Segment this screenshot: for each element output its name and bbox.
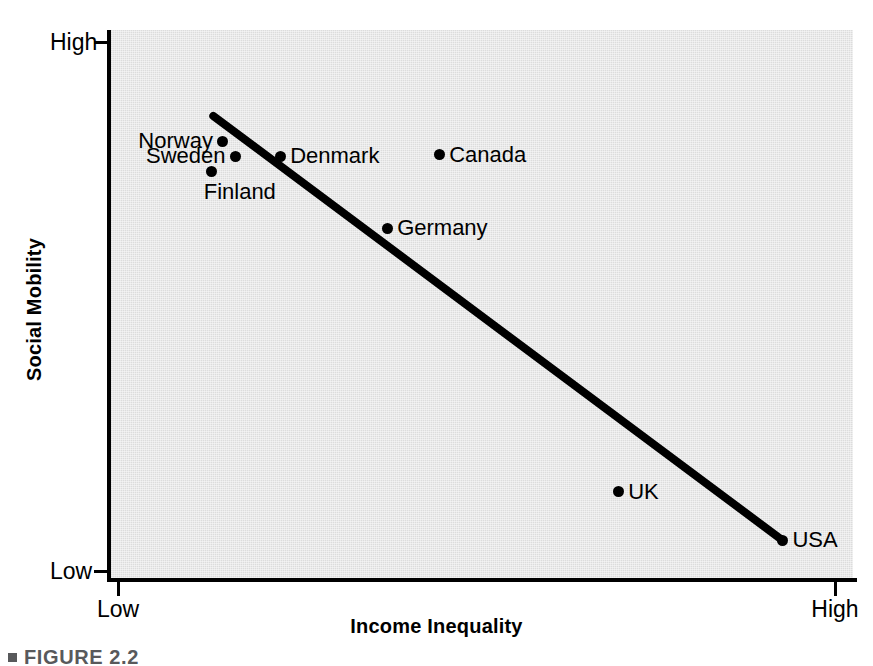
data-point-label-canada: Canada [449,143,526,167]
x-axis-line [107,578,857,582]
data-point-label-denmark: Denmark [290,144,379,168]
x-axis-title: Income Inequality [0,615,873,638]
data-point-label-finland: Finland [204,180,276,204]
y-axis-title: Social Mobility [23,190,46,430]
data-point-label-uk: UK [628,480,659,504]
data-point-usa [777,535,788,546]
y-axis-line [107,30,111,582]
data-point-sweden [230,151,241,162]
data-point-label-usa: USA [792,528,837,552]
figure-container: High Low Low High Income Inequality Soci… [0,0,873,666]
y-axis-tick-low [94,570,107,573]
x-axis-tick-high [834,582,837,596]
data-point-label-germany: Germany [397,216,487,240]
x-axis-tick-low [117,582,120,596]
data-point-germany [382,223,393,234]
figure-caption-text: FIGURE 2.2 [24,650,139,666]
data-point-denmark [275,151,286,162]
y-axis-ticklabel-low: Low [50,558,90,584]
y-axis-ticklabel-high: High [50,29,90,55]
square-bullet-icon [8,653,17,662]
plot-area [110,30,853,578]
data-point-label-sweden: Sweden [146,144,226,168]
figure-caption: FIGURE 2.2 [0,650,873,666]
